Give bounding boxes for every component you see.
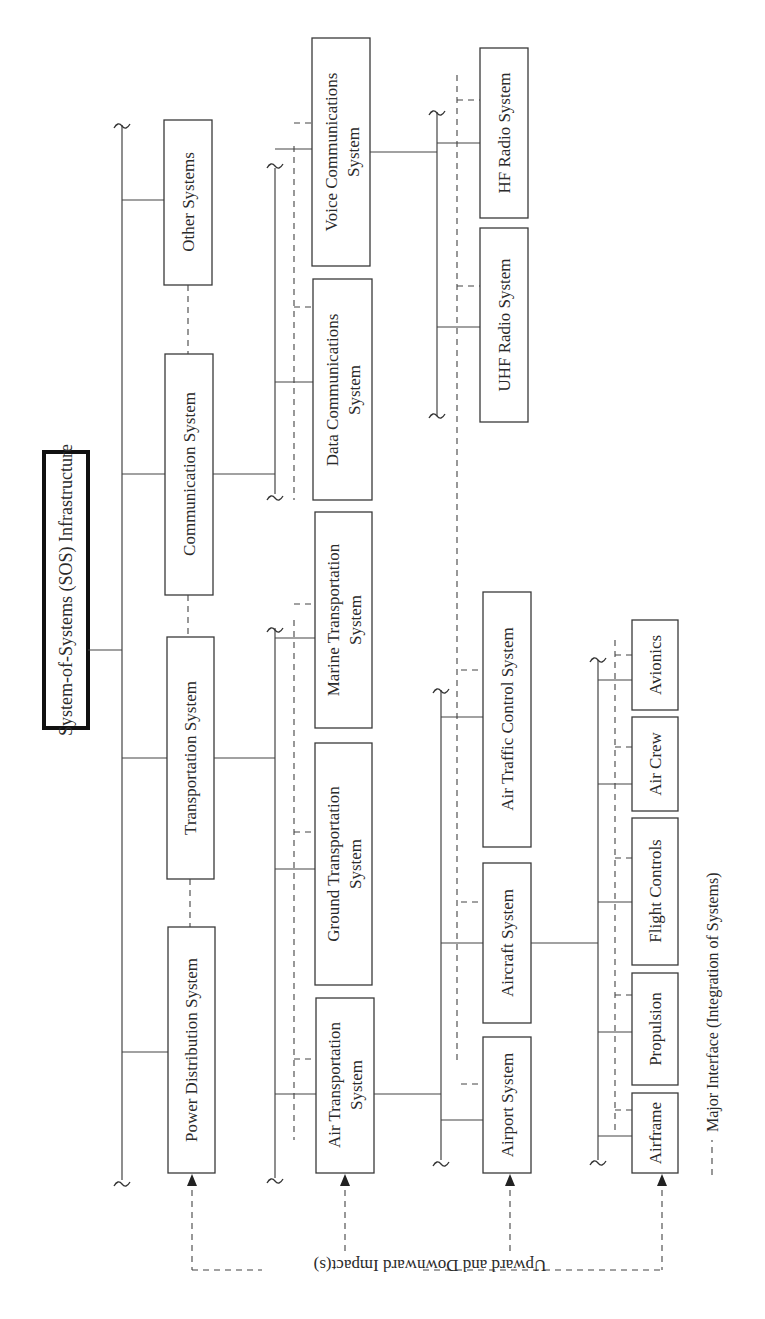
node-hf-radio-system: HF Radio System <box>480 48 528 218</box>
svg-text:Flight Controls: Flight Controls <box>646 839 665 942</box>
impact-label: Upward and Downward Impact(s) <box>314 1256 547 1275</box>
node-avionics: Avionics <box>632 620 678 710</box>
root-label: System-of-Systems (SOS) Infrastructure <box>56 444 77 736</box>
node-marine-transportation-system: Marine Transportation System <box>315 512 372 728</box>
svg-text:Propulsion: Propulsion <box>646 992 665 1066</box>
node-communication-system: Communication System <box>165 354 213 595</box>
node-ground-transportation-system: Ground Transportation System <box>315 743 372 985</box>
node-air-traffic-control-system: Air Traffic Control System <box>483 592 531 847</box>
sos-hierarchy-diagram: System-of-Systems (SOS) Infrastructure O… <box>0 0 765 1319</box>
svg-text:System: System <box>346 595 365 645</box>
legend: Major Interface (Integration of Systems) <box>704 873 722 1175</box>
node-propulsion: Propulsion <box>632 973 678 1085</box>
node-power-distribution-system: Power Distribution System <box>168 927 215 1173</box>
node-voice-communications-system: Voice Communications System <box>312 38 370 266</box>
node-aircraft-system: Aircraft System <box>483 863 531 1023</box>
node-uhf-radio-system: UHF Radio System <box>480 228 528 422</box>
arrow-up-icon <box>505 1174 515 1186</box>
svg-text:Marine Transportation: Marine Transportation <box>324 543 343 696</box>
svg-text:Transportation System: Transportation System <box>181 681 200 835</box>
legend-label: Major Interface (Integration of Systems) <box>704 873 722 1132</box>
svg-text:Communication System: Communication System <box>180 392 199 556</box>
svg-text:System: System <box>344 127 363 177</box>
svg-text:System: System <box>347 1060 366 1110</box>
node-air-crew: Air Crew <box>632 717 678 811</box>
arrow-up-icon <box>187 1174 197 1186</box>
svg-text:System: System <box>345 365 364 415</box>
svg-text:Voice Communications: Voice Communications <box>322 73 341 232</box>
node-flight-controls: Flight Controls <box>632 818 678 965</box>
svg-text:Airport System: Airport System <box>498 1053 517 1157</box>
impact-connector: Upward and Downward Impact(s) <box>187 1174 667 1280</box>
svg-text:Data Communications: Data Communications <box>323 314 342 467</box>
svg-text:Other Systems: Other Systems <box>179 152 198 252</box>
arrow-up-icon <box>657 1174 667 1186</box>
svg-text:Aircraft System: Aircraft System <box>498 889 517 997</box>
node-airframe: Airframe <box>632 1093 678 1173</box>
svg-text:Air Traffic Control System: Air Traffic Control System <box>498 627 517 810</box>
svg-text:Avionics: Avionics <box>646 635 665 695</box>
svg-text:Air Crew: Air Crew <box>646 731 665 795</box>
svg-text:UHF Radio System: UHF Radio System <box>495 258 514 391</box>
root-node: System-of-Systems (SOS) Infrastructure <box>44 444 88 736</box>
node-other-systems: Other Systems <box>164 120 212 285</box>
svg-text:Air Transportation: Air Transportation <box>325 1021 344 1148</box>
arrow-up-icon <box>340 1174 350 1186</box>
svg-text:Power Distribution System: Power Distribution System <box>182 958 201 1142</box>
node-airport-system: Airport System <box>483 1037 531 1173</box>
svg-text:System: System <box>346 839 365 889</box>
continuation-tilde-icon <box>114 1182 130 1186</box>
node-air-transportation-system: Air Transportation System <box>316 998 374 1173</box>
svg-text:Ground Transportation: Ground Transportation <box>324 786 343 942</box>
node-transportation-system: Transportation System <box>167 637 214 879</box>
node-data-communications-system: Data Communications System <box>313 279 372 500</box>
svg-text:HF Radio System: HF Radio System <box>495 73 514 194</box>
svg-text:Airframe: Airframe <box>646 1102 665 1164</box>
